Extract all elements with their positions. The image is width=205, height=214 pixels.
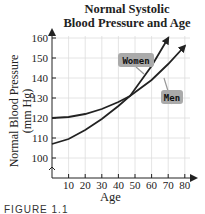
svg-text:Men: Men	[164, 93, 180, 103]
line-chart: 1020304050607080100110120130140150160Wom…	[0, 0, 205, 214]
svg-text:30: 30	[96, 179, 108, 191]
svg-text:70: 70	[163, 179, 175, 191]
svg-text:160: 160	[32, 32, 49, 44]
svg-text:10: 10	[63, 179, 75, 191]
svg-text:150: 150	[32, 52, 49, 64]
svg-text:140: 140	[32, 72, 49, 84]
svg-text:60: 60	[146, 179, 158, 191]
svg-text:110: 110	[32, 132, 49, 144]
svg-text:40: 40	[113, 179, 125, 191]
svg-text:120: 120	[32, 112, 49, 124]
svg-text:80: 80	[179, 179, 191, 191]
svg-text:Women: Women	[122, 56, 149, 66]
svg-text:100: 100	[32, 152, 49, 164]
svg-text:50: 50	[130, 179, 142, 191]
svg-text:130: 130	[32, 92, 49, 104]
svg-text:20: 20	[80, 179, 92, 191]
